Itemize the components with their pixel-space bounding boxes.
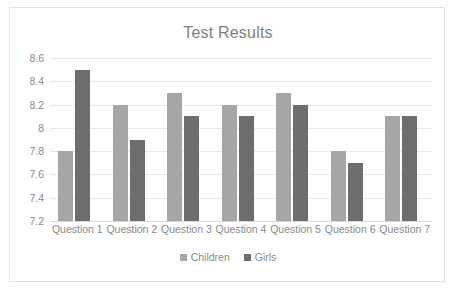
gridline [50,221,432,222]
chart-title: Test Results [10,24,445,42]
y-axis-tick-label: 7.6 [29,168,44,180]
bar-group [50,58,105,221]
bar-children-4[interactable] [222,105,237,221]
bar-girls-1[interactable] [75,70,90,221]
bar-girls-7[interactable] [402,116,417,221]
legend-item-girls[interactable]: Girls [244,251,277,263]
bar-children-6[interactable] [331,151,346,221]
y-axis-tick-label: 8.6 [29,52,44,64]
bar-children-5[interactable] [276,93,291,221]
y-axis-tick-label: 8.4 [29,75,44,87]
bar-girls-5[interactable] [293,105,308,221]
y-axis-tick-label: 7.8 [29,145,44,157]
bar-group [214,58,269,221]
x-axis-label-5: Question 5 [268,223,323,235]
x-axis-label-1: Question 1 [50,223,105,235]
x-axis-label-7: Question 7 [377,223,432,235]
bar-girls-6[interactable] [348,163,363,221]
bars-layer [50,58,432,221]
bar-group [105,58,160,221]
chart-legend: ChildrenGirls [10,251,445,263]
bar-children-1[interactable] [58,151,73,221]
legend-item-children[interactable]: Children [180,251,230,263]
bar-group [268,58,323,221]
bar-children-3[interactable] [167,93,182,221]
bar-group [159,58,214,221]
x-axis-label-4: Question 4 [214,223,269,235]
x-axis-label-2: Question 2 [105,223,160,235]
x-axis-labels: Question 1Question 2Question 3Question 4… [50,223,432,241]
x-axis-label-6: Question 6 [323,223,378,235]
y-axis-tick-label: 7.2 [29,215,44,227]
chart-container: Test Results 8.68.48.287.87.67.47.2 Ques… [9,7,445,282]
legend-swatch-icon [180,254,187,261]
plot-area: 8.68.48.287.87.67.47.2 [50,58,432,221]
y-axis-tick-label: 8 [38,122,44,134]
bar-group [323,58,378,221]
y-axis-tick-label: 7.4 [29,192,44,204]
legend-swatch-icon [244,254,251,261]
bar-girls-2[interactable] [130,140,145,222]
bar-children-7[interactable] [385,116,400,221]
bar-children-2[interactable] [113,105,128,221]
bar-group [377,58,432,221]
bar-girls-4[interactable] [239,116,254,221]
legend-label: Girls [255,251,277,263]
bar-girls-3[interactable] [184,116,199,221]
x-axis-label-3: Question 3 [159,223,214,235]
legend-label: Children [191,251,230,263]
y-axis-tick-label: 8.2 [29,99,44,111]
